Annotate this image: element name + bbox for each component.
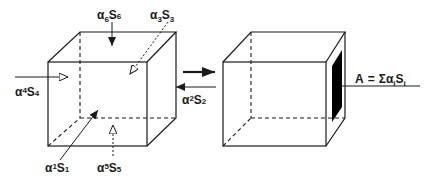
- equivalent-area-formula: A=ΣαiSi: [355, 72, 406, 88]
- incident-flux-arrows: [15, 22, 216, 160]
- left-cube-front-face: [48, 62, 147, 146]
- left-cube-hidden-edge-diagonal: [48, 118, 80, 146]
- left-cube: [48, 32, 176, 146]
- left-cube-right-face: [147, 32, 176, 146]
- right-cube-hidden-edge-diagonal: [223, 118, 251, 146]
- absorption-area-diagram: α6S6 α3S3 α4S4 α2S2 α1S1 α5S5 A=ΣαiSi: [0, 0, 432, 178]
- label-alpha3-s3: α3S3: [150, 8, 175, 24]
- equivalent-absorber-panel: [332, 50, 342, 122]
- label-alpha1-s1: α1S1: [45, 161, 70, 175]
- surface-labels: α6S6 α3S3 α4S4 α2S2 α1S1 α5S5: [15, 8, 207, 175]
- label-alpha4-s4: α4S4: [15, 85, 40, 99]
- right-cube-front-face: [223, 62, 326, 146]
- label-alpha6-s6: α6S6: [97, 8, 122, 24]
- right-cube-top-face: [223, 32, 345, 62]
- right-cube: A=ΣαiSi: [223, 32, 420, 146]
- label-alpha5-s5: α5S5: [97, 161, 122, 175]
- flux-arrow-s3: [130, 22, 168, 74]
- label-alpha2-s2: α2S2: [182, 93, 207, 107]
- flux-arrow-s1: [60, 110, 98, 160]
